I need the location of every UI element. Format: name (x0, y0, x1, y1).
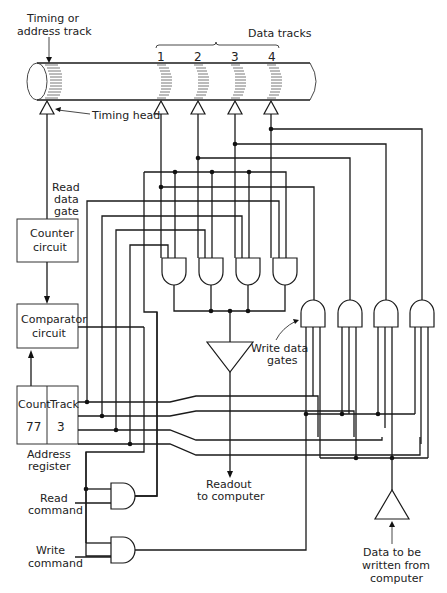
comparator-label-2: circuit (32, 327, 66, 340)
read-command-gate-icon (111, 483, 135, 509)
count-value: 77 (26, 420, 41, 434)
data-track-band-4 (267, 65, 282, 98)
count-label: Count (18, 398, 51, 411)
data-track-band-3 (231, 65, 246, 98)
read-and-gates (162, 258, 297, 285)
write-and-gates (301, 300, 434, 327)
address-register-label-2: register (28, 460, 71, 473)
readout-label-2: to computer (197, 490, 265, 503)
head-4-icon (264, 101, 278, 114)
counter-label-2: circuit (33, 241, 67, 254)
write-command-label-1: Write (36, 544, 65, 557)
data-track-band-2 (194, 65, 209, 98)
data-track-band-1 (157, 65, 172, 98)
drum-memory-diagram: Timing or address track Data tracks 1 2 … (0, 0, 447, 593)
write-gate-4-icon (410, 300, 434, 327)
head-2-icon (191, 101, 205, 114)
comparator-label-1: Comparator (21, 313, 87, 326)
write-data-gates-label-2: gates (267, 354, 298, 367)
read-gate-4-icon (273, 258, 297, 285)
head-3-icon (228, 101, 242, 114)
data-in-label-2: written from (362, 559, 430, 572)
timing-head-label: Timing head (91, 109, 160, 122)
track-number-4: 4 (268, 50, 276, 64)
magnetic-drum (27, 63, 316, 100)
read-data-gate-label-3: gate (54, 205, 79, 218)
track-label: Track (49, 398, 79, 411)
read-amplifier-icon (207, 342, 253, 372)
timing-track-band (45, 65, 62, 98)
write-gate-1-icon (301, 300, 325, 327)
track-number-2: 2 (194, 50, 202, 64)
read-gate-2-icon (199, 258, 223, 285)
write-gate-2-icon (338, 300, 362, 327)
counter-label-1: Counter (30, 227, 74, 240)
write-command-gate-icon (111, 537, 135, 563)
track-value: 3 (57, 420, 65, 434)
read-command-label-2: command (28, 504, 83, 517)
address-register (17, 386, 78, 444)
timing-track-label-2: address track (17, 25, 92, 38)
write-gate-3-icon (374, 300, 398, 327)
timing-track-label-1: Timing or (26, 12, 79, 25)
data-in-label-1: Data to be (363, 546, 421, 559)
track-number-1: 1 (157, 50, 165, 64)
data-tracks-brace (156, 42, 279, 48)
data-in-label-3: computer (370, 572, 424, 585)
write-amplifier-icon (375, 490, 409, 519)
read-gate-3-icon (236, 258, 260, 285)
read-gate-1-icon (162, 258, 186, 285)
comparator-circuit-box (17, 304, 78, 348)
data-tracks-label: Data tracks (248, 27, 312, 40)
write-command-label-2: command (28, 557, 83, 570)
timing-head-icon (40, 101, 54, 114)
track-number-3: 3 (231, 50, 239, 64)
